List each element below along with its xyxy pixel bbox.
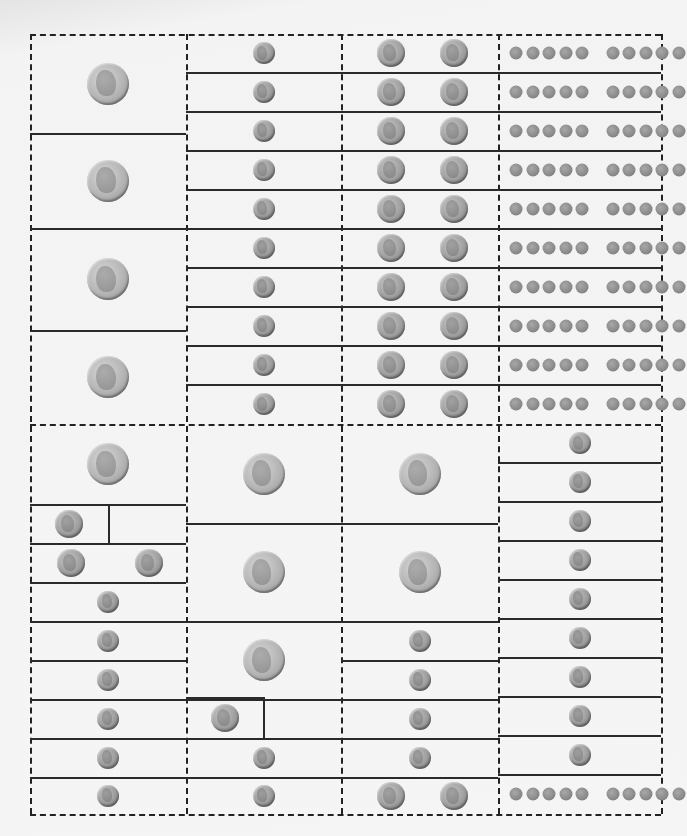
card-fold-line [341, 384, 498, 386]
dime-icon [253, 785, 275, 807]
penny-icon [606, 398, 619, 411]
penny-icon [623, 47, 636, 60]
penny-icon [606, 241, 619, 254]
penny-icon [672, 398, 685, 411]
penny-icon [526, 358, 539, 371]
card-fold-line [498, 657, 661, 659]
penny-icon [543, 241, 556, 254]
quarter-icon [399, 551, 441, 593]
penny-icon [606, 202, 619, 215]
penny-icon [526, 85, 539, 98]
card-fold-line [186, 621, 341, 623]
penny-icon [639, 788, 652, 801]
card-fold-line [498, 501, 661, 503]
nickel-icon [55, 510, 83, 538]
quarter-icon [243, 551, 285, 593]
penny-icon [639, 358, 652, 371]
penny-icon [639, 202, 652, 215]
card-fold-line [30, 699, 186, 701]
card-fold-line [498, 618, 661, 620]
card-fold-line [30, 504, 108, 506]
penny-icon [576, 124, 589, 137]
dime-icon [97, 669, 119, 691]
penny-icon [623, 319, 636, 332]
nickel-icon [57, 549, 85, 577]
frame-bottom-cut-line [30, 814, 661, 816]
frame-top-cut-line [30, 34, 661, 36]
card-fold-line [186, 697, 263, 699]
dime-icon [253, 42, 275, 64]
penny-icon [543, 202, 556, 215]
card-fold-line [30, 330, 186, 332]
nickel-icon [440, 195, 468, 223]
quarter-icon [87, 63, 129, 105]
penny-icon [526, 47, 539, 60]
penny-icon [606, 788, 619, 801]
card-fold-line [498, 774, 661, 776]
penny-icon [672, 85, 685, 98]
dime-icon [253, 198, 275, 220]
card-fold-line [186, 523, 341, 525]
card-fold-line [186, 111, 341, 113]
dime-icon [253, 81, 275, 103]
penny-icon [672, 241, 685, 254]
quarter-icon [87, 356, 129, 398]
card-fold-line [186, 228, 341, 230]
penny-icon [559, 85, 572, 98]
penny-icon [656, 319, 669, 332]
card-fold-line [186, 738, 341, 740]
card-fold-line [498, 462, 661, 464]
penny-icon [559, 241, 572, 254]
quarter-icon [87, 258, 129, 300]
penny-icon [672, 202, 685, 215]
penny-icon [606, 319, 619, 332]
penny-icon [526, 788, 539, 801]
penny-icon [623, 788, 636, 801]
card-fold-line [341, 621, 498, 623]
nickel-icon [377, 156, 405, 184]
card-fold-line [498, 696, 661, 698]
penny-icon [623, 124, 636, 137]
dime-icon [253, 159, 275, 181]
card-fold-line [341, 111, 498, 113]
dime-icon [569, 471, 591, 493]
quarter-icon [87, 443, 129, 485]
dime-icon [569, 510, 591, 532]
dime-icon [409, 669, 431, 691]
dime-icon [409, 708, 431, 730]
card-fold-line [186, 189, 341, 191]
dime-icon [97, 785, 119, 807]
penny-icon [543, 280, 556, 293]
card-fold-line [186, 345, 341, 347]
card-fold-line [498, 384, 661, 386]
penny-icon [639, 124, 652, 137]
penny-icon [559, 358, 572, 371]
penny-icon [510, 47, 523, 60]
coin-card-sheet: Coin Dominoes [0, 0, 687, 836]
penny-icon [639, 241, 652, 254]
nickel-icon [440, 782, 468, 810]
penny-icon [639, 280, 652, 293]
penny-icon [559, 398, 572, 411]
penny-icon [510, 788, 523, 801]
penny-icon [559, 124, 572, 137]
card-fold-line [498, 540, 661, 542]
card-fold-line [30, 228, 186, 230]
penny-icon [623, 398, 636, 411]
card-fold-line [341, 699, 498, 701]
card-fold-line [186, 72, 341, 74]
card-fold-line [263, 697, 265, 738]
penny-icon [526, 202, 539, 215]
dime-icon [569, 705, 591, 727]
penny-icon [543, 358, 556, 371]
card-fold-line [108, 504, 110, 543]
penny-icon [656, 85, 669, 98]
penny-icon [672, 163, 685, 176]
dime-icon [97, 708, 119, 730]
card-fold-line [30, 777, 186, 779]
penny-icon [510, 280, 523, 293]
penny-icon [672, 280, 685, 293]
dime-icon [97, 591, 119, 613]
quarter-icon [399, 453, 441, 495]
card-fold-line [186, 384, 341, 386]
